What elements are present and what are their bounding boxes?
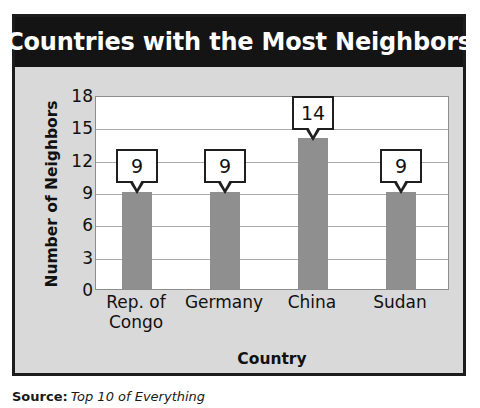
bar-china[interactable] [298,138,328,289]
data-label-value: 14 [301,102,325,124]
y-tick-label: 3 [82,248,93,268]
x-tick-label-line: Congo [106,312,166,332]
chart-title: Countries with the Most Neighbors [6,28,472,56]
callout-tail-inner-icon [396,180,406,189]
y-tick-label: 0 [82,280,93,300]
source-label: Source: [12,389,68,404]
source-note: Source:Top 10 of Everything [12,389,205,404]
y-axis-tick-labels: 18 15 12 9 6 3 0 [59,67,93,373]
y-tick-label: 18 [71,86,93,106]
data-label-value: 9 [219,155,231,177]
x-tick-label-line: Rep. of [106,292,166,312]
y-tick-label: 9 [82,183,93,203]
chart-title-band: Countries with the Most Neighbors [15,17,463,67]
data-label-value: 9 [395,155,407,177]
data-label-china: 14 [292,96,334,130]
bars-layer: 9 9 14 9 [96,97,448,289]
chart-panel: Countries with the Most Neighbors Number… [12,14,466,376]
data-label-value: 9 [131,155,143,177]
bar-rep-of-congo[interactable] [122,192,152,289]
callout-tail-inner-icon [132,180,142,189]
chart-plot-region: Number of Neighbors 18 15 12 9 6 3 0 [15,67,463,373]
callout-tail-inner-icon [220,180,230,189]
y-tick-label: 15 [71,118,93,138]
y-tick-label: 6 [82,215,93,235]
x-tick-label-rep-of-congo: Rep. of Congo [106,292,166,332]
data-label-sudan: 9 [380,149,422,183]
x-tick-label-china: China [288,292,337,312]
y-tick-label: 12 [71,151,93,171]
plot-box: 9 9 14 9 [95,96,449,290]
bar-sudan[interactable] [386,192,416,289]
bar-germany[interactable] [210,192,240,289]
chart-figure: Countries with the Most Neighbors Number… [0,0,480,408]
x-axis-title: Country [95,350,449,368]
data-label-rep-of-congo: 9 [116,149,158,183]
x-tick-label-germany: Germany [185,292,263,312]
x-tick-label-sudan: Sudan [373,292,427,312]
source-value: Top 10 of Everything [71,389,205,404]
x-axis-tick-labels: Rep. of Congo Germany China Sudan [95,292,449,348]
data-label-germany: 9 [204,149,246,183]
callout-tail-inner-icon [308,127,318,136]
